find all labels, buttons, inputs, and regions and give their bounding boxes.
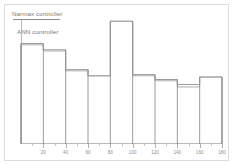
x-tick-major xyxy=(66,144,67,148)
x-tick-major xyxy=(110,144,111,148)
histogram-series-group xyxy=(21,20,222,144)
x-tick-label: 100 xyxy=(129,150,137,156)
x-tick-major xyxy=(155,144,156,148)
x-tick-minor xyxy=(99,144,100,146)
x-tick-label: 60 xyxy=(85,150,90,156)
x-tick-minor xyxy=(55,144,56,146)
legend-item-narmax: Narmax controller xyxy=(12,9,132,18)
x-tick-major xyxy=(88,144,89,148)
x-tick-major xyxy=(43,144,44,148)
plot-area xyxy=(21,20,222,144)
x-tick-minor xyxy=(144,144,145,146)
x-tick-minor xyxy=(189,144,190,146)
x-tick-label: 20 xyxy=(41,150,46,156)
series-narmax xyxy=(21,21,222,144)
legend-label-narmax: Narmax controller xyxy=(12,9,132,18)
x-tick-minor xyxy=(77,144,78,146)
x-tick-minor xyxy=(32,144,33,146)
x-tick-label: 120 xyxy=(151,150,159,156)
x-tick-label: 140 xyxy=(173,150,181,156)
x-tick-label: 80 xyxy=(108,150,113,156)
x-tick-major xyxy=(133,144,134,148)
x-tick-label: 160 xyxy=(196,150,204,156)
x-tick-major xyxy=(177,144,178,148)
x-tick-major xyxy=(222,144,223,148)
x-tick-minor xyxy=(211,144,212,146)
x-tick-minor xyxy=(122,144,123,146)
x-tick-label: 40 xyxy=(63,150,68,156)
x-tick-label: 180 xyxy=(218,150,226,156)
x-tick-major xyxy=(200,144,201,148)
series-ann xyxy=(21,21,222,144)
chart-figure: Narmax controller ANN controller 2040608… xyxy=(0,0,233,165)
series-path-narmax xyxy=(21,21,222,144)
x-axis: 20406080100120140160180 xyxy=(21,144,222,162)
x-tick-minor xyxy=(166,144,167,146)
series-path-ann xyxy=(21,21,222,144)
